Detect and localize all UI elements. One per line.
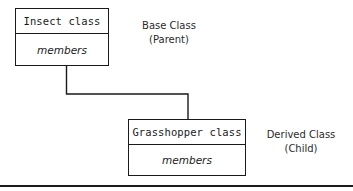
base-class-annotation-line2: (Parent) <box>128 33 210 47</box>
derived-class-name: Grasshopper class <box>129 120 245 145</box>
derived-class-members: members <box>129 145 245 175</box>
derived-class-box[interactable]: Grasshopper class members <box>128 119 246 176</box>
inheritance-diagram: Insect class members Base Class (Parent)… <box>0 0 353 191</box>
base-class-members: members <box>16 34 108 65</box>
derived-class-annotation-line2: (Child) <box>258 142 344 156</box>
base-class-box[interactable]: Insect class members <box>15 8 109 66</box>
derived-class-annotation-line1: Derived Class <box>258 128 344 142</box>
bottom-divider-rule <box>0 185 353 187</box>
inheritance-connector-path <box>67 66 189 119</box>
base-class-name: Insect class <box>16 9 108 34</box>
base-class-annotation-line1: Base Class <box>128 19 210 33</box>
derived-class-annotation: Derived Class (Child) <box>258 128 344 156</box>
base-class-annotation: Base Class (Parent) <box>128 19 210 47</box>
